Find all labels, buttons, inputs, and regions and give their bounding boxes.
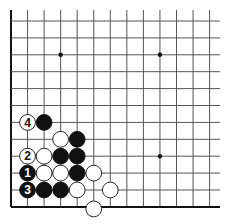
- stones: 4213: [20, 115, 119, 217]
- star-point: [158, 154, 162, 158]
- white-stone: [69, 182, 85, 198]
- star-point: [58, 53, 62, 57]
- go-board: 4213: [0, 0, 226, 224]
- black-stone: [53, 182, 69, 198]
- white-stone: [86, 165, 102, 181]
- white-stone: [86, 201, 102, 217]
- black-stone: [69, 148, 85, 164]
- black-stone: [36, 182, 52, 198]
- black-stone: [69, 131, 85, 147]
- black-stone: 3: [20, 182, 36, 198]
- move-number: 3: [24, 183, 31, 197]
- white-stone: [102, 182, 118, 198]
- star-point: [158, 53, 162, 57]
- black-stone: 1: [20, 165, 36, 181]
- move-number: 1: [24, 166, 31, 180]
- white-stone: 2: [20, 148, 36, 164]
- move-number: 2: [24, 149, 31, 163]
- white-stone: [36, 165, 52, 181]
- black-stone: [69, 165, 85, 181]
- white-stone: [53, 131, 69, 147]
- black-stone: [36, 115, 52, 131]
- white-stone: [36, 148, 52, 164]
- move-number: 4: [24, 116, 31, 130]
- white-stone: 4: [20, 115, 36, 131]
- white-stone: [53, 165, 69, 181]
- black-stone: [53, 148, 69, 164]
